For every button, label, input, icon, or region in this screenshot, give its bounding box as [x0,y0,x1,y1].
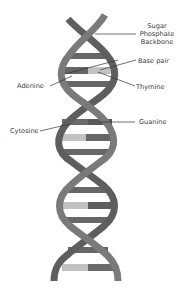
label-cytosine: Cytosine [10,127,39,135]
label-backbone-line-3: Backbone [137,38,177,46]
label-thymine: Thymine [136,83,165,91]
base-pair-rung [64,81,112,87]
leader-base-pair-2 [100,60,136,70]
label-backbone-line-1: Sugar [137,22,177,30]
base-adenine [62,67,88,74]
label-sugar-phosphate-backbone: Sugar Phosphate Backbone [137,22,177,46]
label-backbone-line-2: Phosphate [137,30,177,38]
base-light [62,264,88,271]
label-base-pair: Base pair [138,57,169,65]
base-light [60,202,88,209]
label-guanine: Guanine [139,118,167,126]
base-dark [88,264,114,271]
base-dark [88,202,114,209]
label-adenine: Adenine [17,82,44,90]
